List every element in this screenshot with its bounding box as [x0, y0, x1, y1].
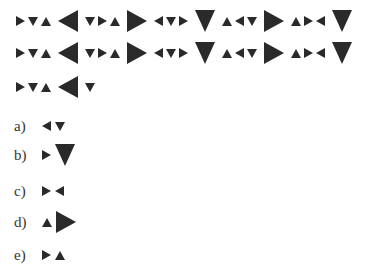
small-left-triangle-icon	[235, 16, 244, 26]
small-up-triangle-icon	[41, 83, 51, 92]
small-up-triangle-icon	[110, 49, 120, 58]
large-down-triangle-icon	[195, 42, 215, 64]
triangle-group	[127, 42, 150, 64]
large-right-triangle-icon	[127, 10, 147, 32]
option-e-label: e)	[14, 247, 42, 264]
triangle-group	[264, 10, 287, 32]
small-up-triangle-icon	[222, 17, 232, 26]
triangle-group	[195, 42, 218, 64]
small-right-triangle-icon	[16, 48, 25, 58]
small-down-triangle-icon	[85, 83, 95, 92]
option-d-label: d)	[14, 214, 42, 231]
sequence-row-3	[16, 74, 102, 100]
small-left-triangle-icon	[235, 48, 244, 58]
large-down-triangle-icon	[195, 10, 215, 32]
small-down-triangle-icon	[247, 17, 257, 26]
small-up-triangle-icon	[41, 17, 51, 26]
triangle-group	[154, 48, 191, 58]
triangle-group	[58, 76, 81, 98]
small-up-triangle-icon	[291, 49, 301, 58]
option-c[interactable]: c)	[14, 177, 68, 205]
large-right-triangle-icon	[264, 42, 284, 64]
option-e-shapes	[42, 250, 69, 260]
sequence-row-1	[16, 8, 359, 34]
small-down-triangle-icon	[28, 49, 38, 58]
small-left-triangle-icon	[55, 186, 64, 196]
option-b[interactable]: b)	[14, 141, 79, 169]
small-left-triangle-icon	[42, 121, 51, 131]
small-left-triangle-icon	[154, 48, 163, 58]
triangle-group	[58, 10, 81, 32]
triangle-group	[85, 48, 123, 58]
option-b-shapes	[42, 144, 79, 166]
triangle-group	[222, 48, 260, 58]
small-right-triangle-icon	[16, 16, 25, 26]
triangle-group	[154, 16, 191, 26]
small-down-triangle-icon	[28, 17, 38, 26]
triangle-group	[264, 42, 287, 64]
small-down-triangle-icon	[247, 49, 257, 58]
triangle-group	[16, 48, 54, 58]
small-down-triangle-icon	[166, 17, 176, 26]
large-right-triangle-icon	[56, 211, 76, 233]
option-d[interactable]: d)	[14, 208, 80, 236]
option-a[interactable]: a)	[14, 112, 69, 140]
small-right-triangle-icon	[42, 186, 51, 196]
small-right-triangle-icon	[16, 82, 25, 92]
triangle-group	[291, 16, 328, 26]
triangle-group	[58, 42, 81, 64]
large-left-triangle-icon	[58, 76, 78, 98]
sequence-row-2	[16, 40, 359, 66]
triangle-group	[16, 82, 54, 92]
small-down-triangle-icon	[28, 83, 38, 92]
large-down-triangle-icon	[55, 144, 75, 166]
small-left-triangle-icon	[154, 16, 163, 26]
triangle-group	[127, 10, 150, 32]
option-c-label: c)	[14, 183, 42, 200]
small-left-triangle-icon	[316, 48, 325, 58]
small-right-triangle-icon	[179, 16, 188, 26]
small-down-triangle-icon	[85, 17, 95, 26]
small-down-triangle-icon	[85, 49, 95, 58]
large-left-triangle-icon	[58, 42, 78, 64]
triangle-group	[332, 10, 355, 32]
large-down-triangle-icon	[332, 42, 352, 64]
small-right-triangle-icon	[98, 48, 107, 58]
small-right-triangle-icon	[42, 150, 51, 160]
triangle-group	[195, 10, 218, 32]
small-down-triangle-icon	[166, 49, 176, 58]
triangle-group	[16, 16, 54, 26]
small-right-triangle-icon	[304, 48, 313, 58]
large-right-triangle-icon	[264, 10, 284, 32]
option-b-label: b)	[14, 147, 42, 164]
small-up-triangle-icon	[222, 49, 232, 58]
small-up-triangle-icon	[291, 17, 301, 26]
triangle-group	[85, 83, 98, 92]
option-a-shapes	[42, 121, 69, 131]
small-down-triangle-icon	[55, 122, 65, 131]
small-up-triangle-icon	[42, 218, 52, 227]
option-a-label: a)	[14, 118, 42, 135]
large-right-triangle-icon	[127, 42, 147, 64]
option-e[interactable]: e)	[14, 241, 69, 269]
small-right-triangle-icon	[42, 250, 51, 260]
small-up-triangle-icon	[41, 49, 51, 58]
small-right-triangle-icon	[179, 48, 188, 58]
large-down-triangle-icon	[332, 10, 352, 32]
option-c-shapes	[42, 186, 68, 196]
triangle-group	[85, 16, 123, 26]
small-up-triangle-icon	[55, 251, 65, 260]
small-up-triangle-icon	[110, 17, 120, 26]
triangle-group	[332, 42, 355, 64]
large-left-triangle-icon	[58, 10, 78, 32]
option-d-shapes	[42, 211, 80, 233]
small-right-triangle-icon	[98, 16, 107, 26]
small-left-triangle-icon	[316, 16, 325, 26]
triangle-group	[291, 48, 328, 58]
small-right-triangle-icon	[304, 16, 313, 26]
triangle-group	[222, 16, 260, 26]
